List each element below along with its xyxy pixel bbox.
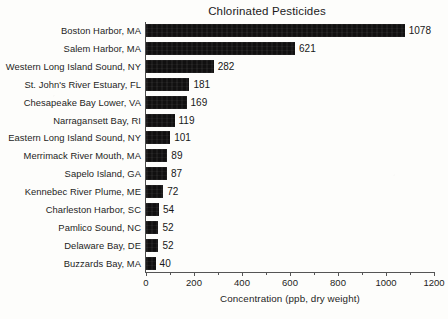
category-label: Delaware Bay, DE — [0, 237, 141, 255]
bar-row: Chesapeake Bay Lower, VA169 — [0, 94, 448, 112]
x-tick-minor — [362, 272, 363, 275]
category-label: Merrimack River Mouth, MA — [0, 147, 141, 165]
bar — [146, 131, 170, 144]
x-tick-major — [242, 272, 243, 276]
bar-value-label: 621 — [299, 41, 316, 57]
bar-value-label: 282 — [218, 59, 235, 75]
category-label: Pamlico Sound, NC — [0, 219, 141, 237]
category-label: Salem Harbor, MA — [0, 40, 141, 58]
bar-value-label: 52 — [162, 238, 173, 254]
bar — [146, 78, 189, 91]
bar-value-label: 181 — [193, 77, 210, 93]
x-tick-label: 800 — [330, 277, 346, 288]
x-tick-label: 1200 — [423, 277, 444, 288]
x-tick-major — [386, 272, 387, 276]
chart-container: Chlorinated Pesticides Boston Harbor, MA… — [0, 0, 448, 319]
bar-row: Western Long Island Sound, NY282 — [0, 58, 448, 76]
bar-row: Narragansett Bay, RI119 — [0, 112, 448, 130]
bar — [146, 221, 158, 234]
plot-area: Boston Harbor, MA1078Salem Harbor, MA621… — [0, 22, 448, 272]
category-label: Kennebec River Plume, ME — [0, 183, 141, 201]
bar-row: Buzzards Bay, MA40 — [0, 255, 448, 273]
bar-row: Merrimack River Mouth, MA89 — [0, 147, 448, 165]
bar — [146, 42, 295, 55]
chart-title-text: Chlorinated Pesticides — [208, 5, 326, 17]
x-tick-minor — [266, 272, 267, 275]
category-label: Buzzards Bay, MA — [0, 255, 141, 273]
category-label: Western Long Island Sound, NY — [0, 58, 141, 76]
category-label: Narragansett Bay, RI — [0, 112, 141, 130]
category-label: St. John's River Estuary, FL — [0, 76, 141, 94]
bar-value-label: 87 — [171, 166, 182, 182]
bar — [146, 60, 214, 73]
x-axis-title: Concentration (ppb, dry weight) — [145, 293, 435, 304]
bar-row: Eastern Long Island Sound, NY101 — [0, 129, 448, 147]
bar — [146, 185, 163, 198]
bar — [146, 239, 158, 252]
bar-value-label: 40 — [160, 256, 171, 272]
x-tick-major — [338, 272, 339, 276]
x-tick-minor — [170, 272, 171, 275]
bar — [146, 24, 405, 37]
bar-value-label: 169 — [191, 95, 208, 111]
category-label: Charleston Harbor, SC — [0, 201, 141, 219]
bar-row: Salem Harbor, MA621 — [0, 40, 448, 58]
bar-value-label: 1078 — [409, 23, 431, 39]
bar-row: Kennebec River Plume, ME72 — [0, 183, 448, 201]
x-tick-major — [194, 272, 195, 276]
x-tick-label: 400 — [234, 277, 250, 288]
category-label: Eastern Long Island Sound, NY — [0, 129, 141, 147]
category-label: Chesapeake Bay Lower, VA — [0, 94, 141, 112]
bar-row: St. John's River Estuary, FL181 — [0, 76, 448, 94]
x-tick-label: 1000 — [375, 277, 396, 288]
bar — [146, 167, 167, 180]
category-label: Sapelo Island, GA — [0, 165, 141, 183]
bar-value-label: 72 — [167, 184, 178, 200]
x-tick-minor — [410, 272, 411, 275]
bar-row: Boston Harbor, MA1078 — [0, 22, 448, 40]
bar-value-label: 54 — [163, 202, 174, 218]
bar-row: Delaware Bay, DE52 — [0, 237, 448, 255]
y-axis-line — [145, 22, 146, 272]
bar-row: Sapelo Island, GA87 — [0, 165, 448, 183]
bar-value-label: 89 — [171, 148, 182, 164]
bar-value-label: 101 — [174, 130, 191, 146]
x-tick-minor — [218, 272, 219, 275]
x-tick-label: 600 — [282, 277, 298, 288]
x-tick-minor — [314, 272, 315, 275]
bar-row: Pamlico Sound, NC52 — [0, 219, 448, 237]
x-tick-label: 200 — [186, 277, 202, 288]
bar — [146, 149, 167, 162]
category-label: Boston Harbor, MA — [0, 22, 141, 40]
bar — [146, 96, 187, 109]
bar-row: Charleston Harbor, SC54 — [0, 201, 448, 219]
bar — [146, 203, 159, 216]
x-tick-major — [146, 272, 147, 276]
bar-value-label: 119 — [179, 113, 195, 129]
chart-title: Chlorinated Pesticides — [0, 5, 448, 17]
bar-value-label: 52 — [162, 220, 173, 236]
bar — [146, 114, 175, 127]
bar — [146, 257, 156, 270]
x-tick-label: 0 — [143, 277, 148, 288]
x-tick-major — [434, 272, 435, 276]
x-tick-major — [290, 272, 291, 276]
